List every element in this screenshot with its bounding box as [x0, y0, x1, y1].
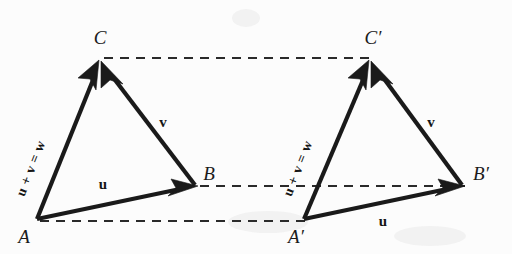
vector-label-v-left: v	[159, 114, 167, 130]
vector-v-left	[101, 61, 195, 185]
vertex-label-A: A	[16, 226, 30, 247]
vector-label-sum-left: u + v = w	[13, 138, 49, 198]
vertex-label-B: B	[203, 163, 215, 184]
triangle-left: A B C u v u + v = w	[13, 27, 215, 247]
vertex-label-B-prime: B′	[473, 163, 490, 184]
arrowhead-w-left	[78, 60, 99, 90]
vertex-label-A-prime: A′	[286, 226, 305, 247]
vector-diagram-figure: A B C u v u + v = w	[0, 0, 512, 254]
vector-label-u-right: u	[379, 213, 387, 229]
vertex-label-C: C	[94, 27, 107, 48]
vector-v-right	[371, 61, 462, 185]
vector-label-v-right: v	[427, 114, 435, 130]
vector-w-right	[304, 60, 369, 219]
vector-u-left	[37, 179, 198, 219]
triangle-right: A′ B′ C′ u v u + v = w	[280, 27, 490, 247]
vertex-label-C-prime: C′	[365, 27, 383, 48]
vector-diagram-canvas: A B C u v u + v = w	[0, 0, 512, 254]
vector-w-left	[37, 60, 99, 219]
vector-label-sum-right: u + v = w	[280, 138, 316, 198]
vector-label-u-left: u	[99, 176, 107, 192]
